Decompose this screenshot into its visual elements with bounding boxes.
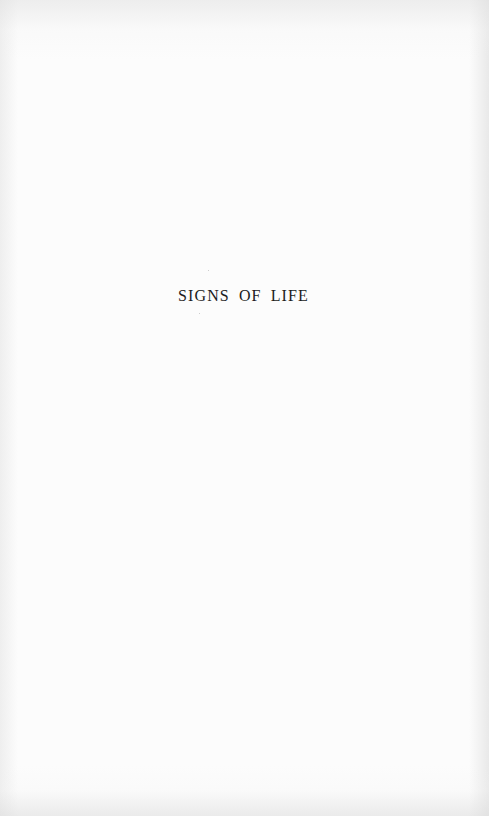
half-title: SIGNS OF LIFE xyxy=(0,286,489,306)
paper-speck xyxy=(208,270,209,271)
paper-speck xyxy=(199,313,200,314)
book-page: SIGNS OF LIFE xyxy=(0,0,489,816)
